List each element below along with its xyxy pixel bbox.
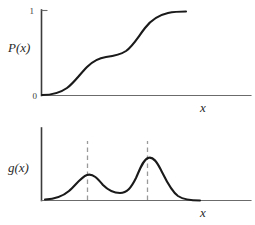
cdf-curve: [42, 12, 186, 96]
density-curve: [45, 158, 200, 201]
top-panel-y-axis-label: P(x): [7, 40, 30, 55]
bottom-panel-group: g(x) x: [8, 128, 251, 220]
bottom-panel-y-axis-label: g(x): [8, 160, 29, 175]
bottom-panel-x-axis-label: x: [199, 205, 206, 220]
top-panel-group: 1 0 P(x) x: [7, 6, 251, 115]
top-panel-x-axis-label: x: [199, 100, 206, 115]
top-panel-ytick-label-one: 1: [30, 6, 35, 16]
figure-container: 1 0 P(x) x g(x) x: [0, 0, 255, 225]
figure-canvas: 1 0 P(x) x g(x) x: [0, 0, 255, 225]
top-panel-origin-label-zero: 0: [33, 91, 38, 101]
